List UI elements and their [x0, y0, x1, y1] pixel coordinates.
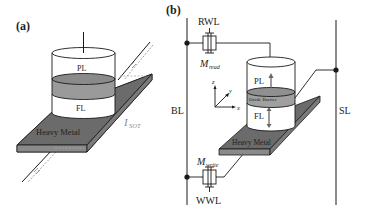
panel-a: (a) Heavy Metal: [16, 19, 153, 182]
sot-mram-figure: (a) Heavy Metal: [0, 0, 367, 214]
m-read-subscript: read: [209, 64, 221, 70]
x-axis-label: x: [236, 104, 240, 111]
pinned-layer-label-a: PL: [77, 64, 86, 73]
z-axis-label: z: [211, 78, 215, 85]
isot-label: I SOT: [123, 116, 141, 129]
coordinate-axes: z y x: [211, 78, 240, 111]
bl-label: BL: [171, 105, 184, 116]
mtj-cylinder-a: PL FL: [52, 32, 115, 119]
panel-b-label: (b): [166, 3, 181, 17]
free-layer-label-b: FL: [254, 111, 264, 121]
m-write-subscript: write: [206, 162, 219, 168]
sl-label: SL: [339, 105, 351, 116]
panel-b: (b) BL SL RWL M read: [166, 3, 351, 206]
mtj-cylinder-b: PL Oxide Barrier FL: [247, 57, 295, 131]
write-transistor: WWL M write: [187, 153, 244, 206]
bit-line: BL: [171, 18, 190, 205]
y-axis-label: y: [228, 87, 232, 94]
m-write-symbol: M: [196, 156, 206, 167]
heavy-metal-label-b: Heavy Metal: [232, 138, 271, 147]
oxide-barrier-label: Oxide Barrier: [249, 97, 277, 102]
rwl-label: RWL: [198, 16, 220, 27]
wwl-label: WWL: [196, 195, 221, 206]
panel-a-label: (a): [16, 19, 30, 33]
free-layer-label-a: FL: [76, 104, 85, 113]
pinned-layer-label-b: PL: [254, 76, 264, 86]
m-read-symbol: M: [199, 58, 209, 69]
svg-text:SOT: SOT: [129, 122, 141, 129]
heavy-metal-label-a: Heavy Metal: [36, 127, 81, 137]
